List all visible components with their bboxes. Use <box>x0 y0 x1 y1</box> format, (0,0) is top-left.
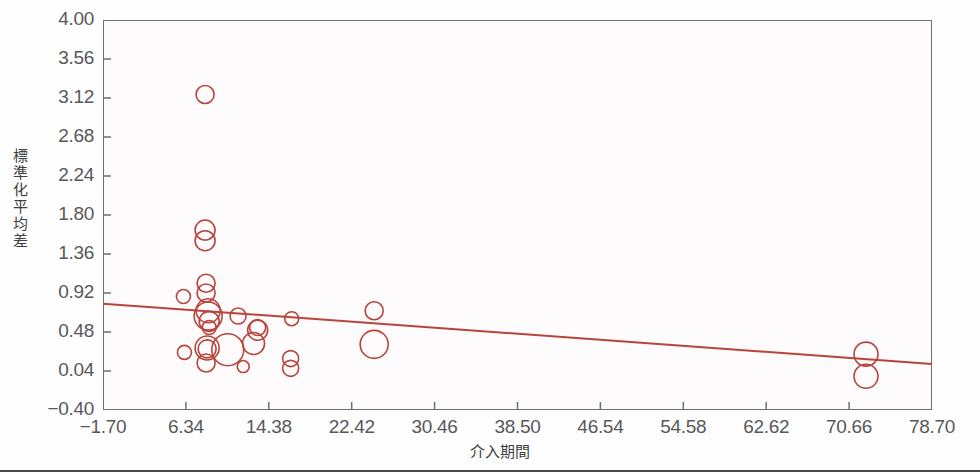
x-tick-label: 30.46 <box>390 416 480 438</box>
y-tick-label: 4.00 <box>22 8 94 30</box>
figure-bottom-rule <box>0 470 980 472</box>
y-tick-label: 0.48 <box>22 320 94 342</box>
y-axis-title-char: 標 <box>8 148 32 165</box>
y-tick-label: 2.24 <box>22 164 94 186</box>
y-tick-label: 1.36 <box>22 242 94 264</box>
y-tick-label: 3.56 <box>22 47 94 69</box>
x-tick-label: 22.42 <box>307 416 397 438</box>
bubble-plot-figure: 標準化平均差 介入期間 4.003.563.122.682.241.801.36… <box>0 0 980 474</box>
x-tick-label: 38.50 <box>473 416 563 438</box>
x-tick-label: 6.34 <box>141 416 231 438</box>
x-tick-label: 46.54 <box>555 416 645 438</box>
y-tick-label: 3.12 <box>22 86 94 108</box>
x-tick-label: −1.70 <box>58 416 148 438</box>
x-tick-label: 78.70 <box>887 416 977 438</box>
x-tick-label: 62.62 <box>721 416 811 438</box>
x-axis-title: 介入期間 <box>470 440 590 461</box>
y-tick-label: 0.04 <box>22 359 94 381</box>
x-tick-label: 54.58 <box>638 416 728 438</box>
y-tick-label: 1.80 <box>22 203 94 225</box>
y-tick-label: 0.92 <box>22 281 94 303</box>
plot-area <box>103 20 932 410</box>
x-tick-label: 70.66 <box>804 416 894 438</box>
x-tick-label: 14.38 <box>224 416 314 438</box>
y-tick-label: 2.68 <box>22 125 94 147</box>
